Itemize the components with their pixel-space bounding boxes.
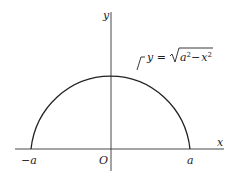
semicircle-curve [31,76,190,149]
origin-label: O [99,154,108,167]
pos-a-label: a [187,154,194,167]
y-axis-label: y [102,9,110,22]
semicircle-diagram: y x O −a a y = a2−x2 [0,0,236,181]
equation-label: y = a2−x2 [146,48,213,64]
neg-a-label: −a [21,154,37,167]
equation-leader-line [137,57,145,70]
equation-lhs: y = [146,51,166,64]
equation-radicand: a2−x2 [180,51,212,64]
x-axis-label: x [217,136,224,149]
